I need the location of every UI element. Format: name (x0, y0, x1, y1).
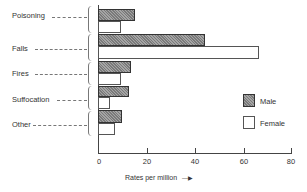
bar-suffocation-male (98, 86, 129, 97)
legend-swatch-male (243, 94, 255, 107)
category-label-suffocation: Suffocation (12, 95, 49, 104)
x-tick (147, 148, 148, 153)
x-axis-label: Rates per million —▶ (125, 174, 193, 181)
leader-line (57, 100, 87, 101)
x-tick-label: 40 (191, 157, 199, 166)
bar-other-female (98, 123, 115, 135)
brace (88, 111, 95, 136)
category-label-fires: Fires (12, 69, 29, 78)
legend-label-female: Female (260, 119, 285, 128)
x-tick (291, 148, 292, 153)
x-tick (195, 148, 196, 153)
x-axis-label-text: Rates per million (125, 174, 177, 181)
bar-falls-female (98, 46, 259, 59)
x-tick-label: 80 (287, 157, 295, 166)
legend-swatch-female (243, 116, 255, 129)
bar-other-male (98, 110, 122, 123)
brace (88, 86, 95, 110)
x-tick-label: 60 (240, 157, 248, 166)
x-tick-label: 20 (143, 157, 151, 166)
category-label-falls: Falls (12, 44, 28, 53)
bar-suffocation-female (98, 97, 110, 109)
bar-poisoning-female (98, 21, 121, 33)
bar-fires-male (98, 61, 131, 73)
brace (88, 6, 95, 33)
leader-line (35, 49, 87, 50)
x-axis (98, 153, 292, 154)
leader-line (33, 125, 87, 126)
leader-line (52, 17, 87, 18)
brace (88, 62, 95, 85)
leader-line (35, 74, 87, 75)
category-label-other: Other (12, 120, 31, 129)
category-label-poisoning: Poisoning (12, 11, 45, 20)
bar-falls-male (98, 34, 205, 46)
x-tick (244, 148, 245, 153)
bar-fires-female (98, 73, 121, 85)
bar-poisoning-male (98, 9, 135, 21)
arrow-right-icon: —▶ (182, 175, 193, 181)
x-tick-label: 0 (97, 157, 101, 166)
bar-chart: Poisoning Falls Fires Suffocation Other … (0, 0, 307, 192)
legend-label-male: Male (260, 97, 276, 106)
brace (88, 34, 95, 61)
